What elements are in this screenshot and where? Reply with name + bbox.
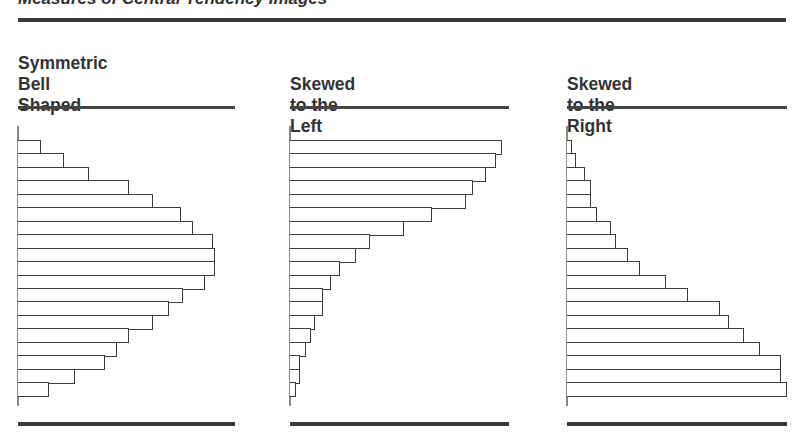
panel-title-rule xyxy=(18,106,235,109)
bottom-rule xyxy=(290,422,509,426)
title-rule xyxy=(18,18,786,22)
page-title: Measures of Central Tendency Images xyxy=(18,0,327,9)
bottom-rule xyxy=(567,422,787,426)
panel-title-rule xyxy=(567,106,787,109)
bar xyxy=(567,382,787,397)
bar xyxy=(18,382,49,397)
bar xyxy=(290,382,296,397)
panel-title-rule xyxy=(290,106,509,109)
bottom-rule xyxy=(18,422,235,426)
